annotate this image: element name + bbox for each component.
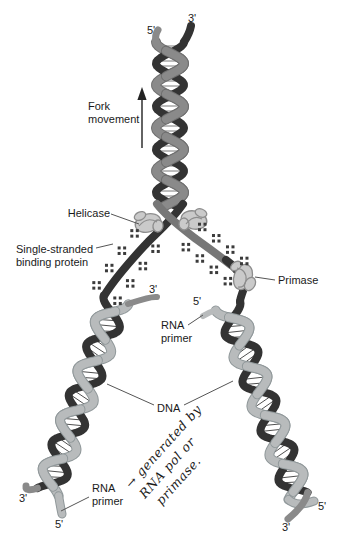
ssb-dot (119, 302, 122, 305)
ssb-dot (217, 240, 220, 243)
ssb-dot (126, 279, 129, 282)
ssb-dot (196, 254, 199, 257)
arrow-head (137, 87, 146, 100)
bottom-right-inner-prime-label: 3' (282, 521, 290, 533)
dna-strand-tail (26, 486, 37, 490)
ssb-dot (113, 302, 116, 305)
ssb-dot (215, 266, 218, 269)
top-left-prime-label: 5' (147, 24, 155, 36)
rna-primer-upper-label-line1: RNA (161, 319, 185, 331)
ssb-dot (229, 277, 232, 280)
dna-label: DNA (157, 402, 181, 414)
ssb-label-line2: binding protein (16, 256, 88, 268)
ssb-dot (231, 245, 234, 248)
ssb-dot (198, 228, 201, 231)
dna-strand-ribbon (166, 51, 184, 77)
handwritten-note: → generated by RNA pol or primase. (122, 402, 230, 514)
ssb-dot (198, 223, 201, 226)
fork-movement-label-line1: Fork (88, 100, 111, 112)
ssb-dot (118, 252, 121, 255)
bottom-left-dna-helix (37, 296, 128, 496)
ssb-dot (212, 240, 215, 243)
ssb-dot (92, 281, 95, 284)
parental-dna-helix (156, 42, 184, 206)
ssb-dot (98, 287, 101, 290)
fork-left-prime-label: 3' (149, 283, 157, 295)
dna-strand-ribbon (166, 137, 184, 163)
helicase-label: Helicase (68, 207, 110, 219)
ssb-dot (229, 282, 232, 285)
ssb-dot (119, 296, 122, 299)
ssb-dot (212, 234, 215, 237)
ssb-dot (123, 246, 126, 249)
primase-label: Primase (278, 274, 318, 286)
rna-primer-lower-leader-line (61, 497, 89, 511)
ssb-dot (245, 262, 248, 265)
ssb-dot (201, 254, 204, 257)
ssb-dot (182, 243, 185, 246)
ssb-dot (201, 260, 204, 263)
dna-strand-ribbon (166, 94, 184, 120)
ssb-dot (123, 252, 126, 255)
primase-leader-line (255, 277, 275, 280)
bottom-left-outer-prime-label: 3' (19, 492, 27, 504)
ssb-dot (118, 246, 121, 249)
dna-strand-tail (156, 30, 158, 42)
fork-right-prime-label: 5' (193, 295, 201, 307)
bottom-left-inner-prime-label: 5' (55, 518, 63, 530)
ssb-dot (203, 228, 206, 231)
ssb-dot (105, 269, 108, 272)
ssb-dot (110, 264, 113, 267)
ssb-leader-line (96, 244, 113, 248)
ssb-dot (224, 282, 227, 285)
ssb-dot (144, 267, 147, 270)
dna-leader-line-right (184, 381, 233, 405)
ssb-dot (139, 267, 142, 270)
rna-primer-lower-label-line1: RNA (92, 482, 116, 494)
ssb-dot (110, 269, 113, 272)
bottom-right-dna-helix (216, 302, 308, 500)
ssb-dot (203, 223, 206, 226)
ssb-dot (226, 245, 229, 248)
ssb-dot (245, 257, 248, 260)
ssb-dot (240, 257, 243, 260)
ssb-dot (136, 229, 139, 232)
rna-primer-upper-leader-line (188, 315, 203, 325)
ssb-dot (130, 229, 133, 232)
ssb-label-line1: Single-stranded (16, 243, 93, 255)
ssb-dot (113, 296, 116, 299)
rna-primer-lower-label-line2: primer (92, 495, 124, 507)
ssb-dot (130, 235, 133, 238)
ssb-dot (231, 251, 234, 254)
ssb-dot (139, 262, 142, 265)
dna-strand-tail (128, 297, 157, 304)
ssb-dot (151, 244, 154, 247)
ssb-dot (187, 248, 190, 251)
ssb-dot (210, 266, 213, 269)
top-right-prime-label: 3' (188, 12, 196, 24)
ssb-dot (131, 279, 134, 282)
dna-leader-line-left (107, 384, 154, 405)
ssb-dot (224, 277, 227, 280)
dna-strand-tail (184, 26, 191, 42)
ssb-dot (105, 264, 108, 267)
dna-replication-fork-diagram: → generated by RNA pol or primase. 5' 3'… (0, 0, 341, 544)
ssb-dot (215, 271, 218, 274)
bottom-right-outer-prime-label: 5' (318, 500, 326, 512)
helicase-blob (178, 218, 189, 231)
ssb-dot (157, 250, 160, 253)
ssb-dot (157, 244, 160, 247)
diagram-page: → generated by RNA pol or primase. 5' 3'… (0, 0, 341, 544)
ssb-dot (217, 234, 220, 237)
ssb-dot (182, 248, 185, 251)
ssb-dot (210, 271, 213, 274)
ssb-dot (196, 260, 199, 263)
ssb-dot (131, 285, 134, 288)
enzyme-blobs (133, 207, 258, 292)
ssb-dot (136, 235, 139, 238)
ssb-dot (187, 243, 190, 246)
ssb-dot (151, 250, 154, 253)
ssb-dot (92, 287, 95, 290)
ssb-dot (144, 262, 147, 265)
ssb-dot (98, 281, 101, 284)
